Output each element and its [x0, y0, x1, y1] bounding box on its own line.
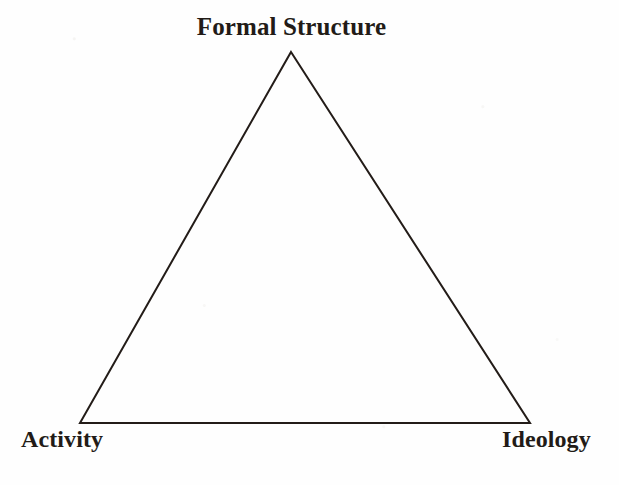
triangle-outline: [80, 52, 530, 423]
vertex-label-ideology: Ideology: [502, 427, 591, 451]
vertex-label-formal-structure: Formal Structure: [0, 14, 583, 39]
triangle-shape: [0, 0, 619, 485]
vertex-label-activity: Activity: [21, 427, 103, 451]
diagram-canvas: Formal Structure Activity Ideology: [0, 0, 619, 485]
